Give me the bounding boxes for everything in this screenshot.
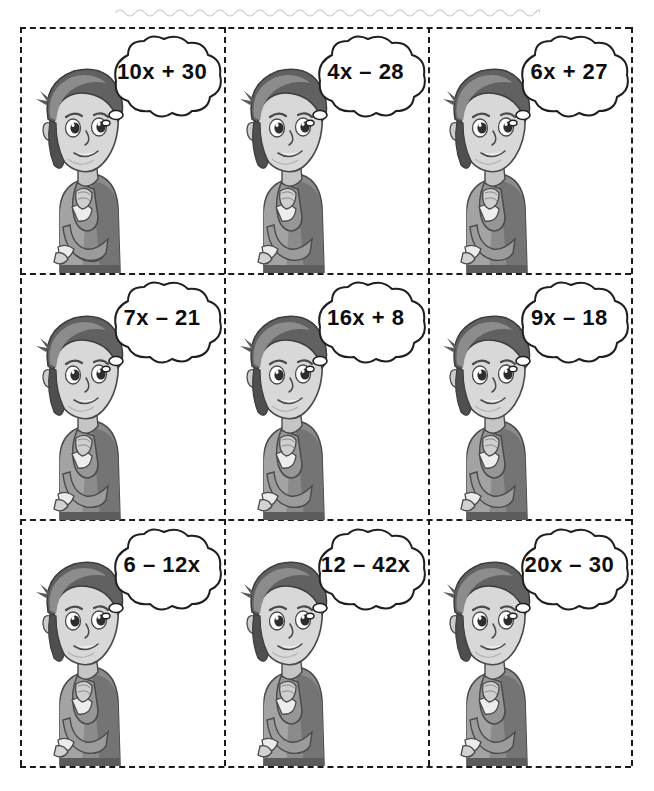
- expression-text: 6x + 27: [505, 61, 631, 83]
- thought-bubble: 10x + 30: [98, 35, 224, 131]
- expression-text: 9x – 18: [505, 307, 631, 329]
- expression-card[interactable]: 6 – 12x: [20, 520, 224, 766]
- thought-bubble: 16x + 8: [302, 281, 428, 377]
- thought-bubble: 4x – 28: [302, 35, 428, 131]
- expression-text: 16x + 8: [302, 307, 428, 329]
- dash-line-bottom: [20, 766, 631, 768]
- worksheet-card-sheet: 10x + 30 4x – 28 6x + 27: [20, 27, 631, 766]
- expression-text: 7x – 21: [98, 307, 224, 329]
- expression-text: 4x – 28: [302, 61, 428, 83]
- thought-bubble: 6 – 12x: [98, 528, 224, 624]
- expression-card[interactable]: 12 – 42x: [224, 520, 428, 766]
- expression-card[interactable]: 10x + 30: [20, 27, 224, 273]
- expression-text: 10x + 30: [98, 61, 224, 83]
- thought-bubble: 7x – 21: [98, 281, 224, 377]
- thought-bubble: 20x – 30: [505, 528, 631, 624]
- thought-bubble: 9x – 18: [505, 281, 631, 377]
- expression-card[interactable]: 6x + 27: [427, 27, 631, 273]
- expression-card[interactable]: 7x – 21: [20, 273, 224, 519]
- scissors-cut-wavy-line: [115, 4, 540, 16]
- dash-line-right: [631, 27, 633, 766]
- expression-card[interactable]: 9x – 18: [427, 273, 631, 519]
- expression-text: 20x – 30: [505, 554, 631, 576]
- thought-bubble: 12 – 42x: [302, 528, 428, 624]
- thought-bubble: 6x + 27: [505, 35, 631, 131]
- expression-card[interactable]: 16x + 8: [224, 273, 428, 519]
- expression-text: 6 – 12x: [98, 554, 224, 576]
- card-grid: 10x + 30 4x – 28 6x + 27: [20, 27, 631, 766]
- expression-card[interactable]: 4x – 28: [224, 27, 428, 273]
- expression-card[interactable]: 20x – 30: [427, 520, 631, 766]
- expression-text: 12 – 42x: [302, 554, 428, 576]
